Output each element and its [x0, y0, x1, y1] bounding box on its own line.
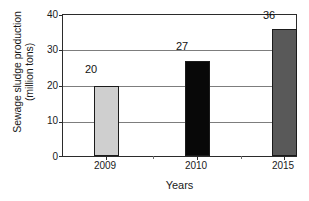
x-category-label-2009: 2009 [85, 161, 125, 171]
x-tick-minor-2 [241, 156, 242, 159]
bar-2009[interactable] [94, 86, 119, 157]
y-tick-mark-0 [59, 156, 63, 157]
bar-value-2009: 20 [85, 64, 97, 75]
plot-area [62, 14, 297, 157]
y-tick-label-30: 30 [36, 45, 58, 55]
bar-value-2010: 27 [176, 41, 188, 52]
y-tick-label-20: 20 [36, 81, 58, 91]
y-tick-label-0: 0 [36, 152, 58, 162]
bar-chart: Sewage sludge production (million tons) … [0, 0, 309, 201]
y-axis-title-line1: Sewage sludge production [11, 11, 23, 132]
x-category-label-2010: 2010 [176, 161, 216, 171]
bar-2010[interactable] [185, 61, 210, 156]
x-tick-minor-1 [153, 156, 154, 159]
bar-value-2015: 36 [263, 10, 275, 21]
y-tick-mark-10 [59, 122, 63, 123]
x-category-label-2015: 2015 [263, 161, 303, 171]
y-tick-mark-30 [59, 50, 63, 51]
y-tick-mark-20 [59, 86, 63, 87]
y-tick-label-40: 40 [36, 10, 58, 20]
y-tick-mark-40 [59, 15, 63, 16]
bar-2015[interactable] [272, 29, 297, 156]
y-tick-label-10: 10 [36, 116, 58, 126]
x-axis-title: Years [62, 180, 297, 191]
y-axis-tick-labels: 40 30 20 10 0 [34, 0, 58, 201]
